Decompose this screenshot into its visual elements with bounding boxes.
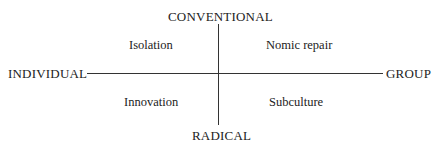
axis-label-top: CONVENTIONAL	[168, 10, 273, 23]
axis-label-left: INDIVIDUAL	[8, 67, 87, 80]
quadrant-label-top-right: Nomic repair	[266, 39, 332, 52]
axis-label-bottom: RADICAL	[192, 129, 251, 142]
axis-label-right: GROUP	[386, 67, 431, 80]
vertical-axis-line	[218, 24, 219, 125]
quadrant-diagram: CONVENTIONAL RADICAL INDIVIDUAL GROUP Is…	[0, 0, 437, 149]
horizontal-axis-line	[87, 73, 383, 74]
quadrant-label-top-left: Isolation	[129, 39, 173, 52]
quadrant-label-bottom-right: Subculture	[269, 96, 323, 109]
quadrant-label-bottom-left: Innovation	[124, 96, 178, 109]
